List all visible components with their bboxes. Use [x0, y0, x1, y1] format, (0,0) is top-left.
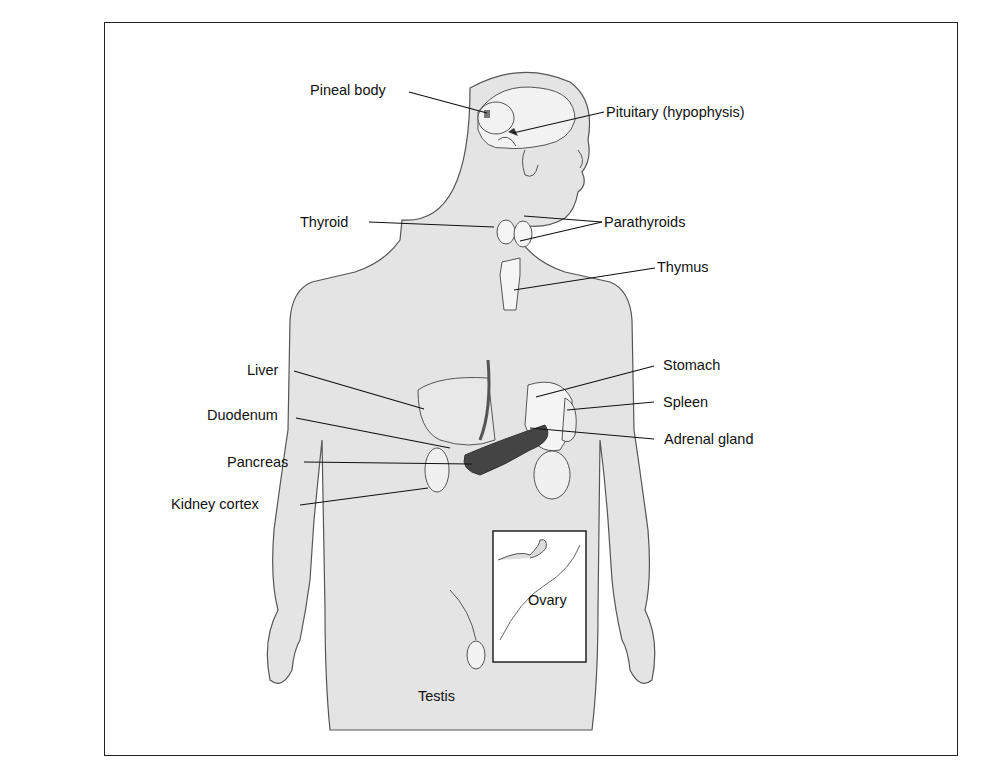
label-thyroid: Thyroid	[300, 215, 348, 230]
label-liver: Liver	[247, 363, 278, 378]
label-pancreas: Pancreas	[227, 455, 288, 470]
label-adrenal-gland: Adrenal gland	[664, 432, 754, 447]
label-pineal-body: Pineal body	[310, 83, 386, 98]
label-testis: Testis	[418, 689, 455, 704]
label-spleen: Spleen	[663, 395, 708, 410]
label-parathyroids: Parathyroids	[604, 215, 685, 230]
label-stomach: Stomach	[663, 358, 720, 373]
testis	[467, 641, 485, 669]
label-kidney-cortex: Kidney cortex	[171, 497, 259, 512]
body-illustration	[0, 0, 986, 771]
label-ovary: Ovary	[528, 593, 567, 608]
label-pituitary: Pituitary (hypophysis)	[606, 105, 745, 120]
label-thymus: Thymus	[657, 260, 709, 275]
thymus-gland	[500, 258, 520, 310]
pineal-gland	[484, 110, 490, 118]
kidney	[425, 448, 449, 492]
intestine	[534, 451, 570, 499]
label-duodenum: Duodenum	[207, 408, 278, 423]
